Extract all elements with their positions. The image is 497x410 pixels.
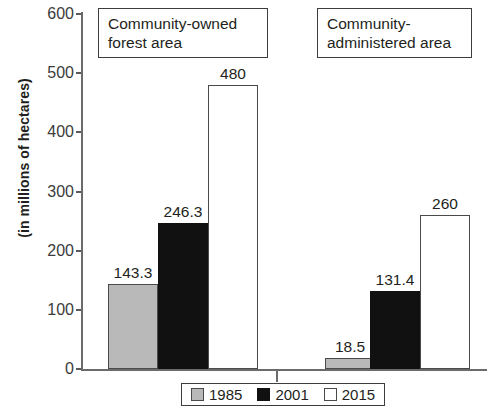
legend-swatch-icon <box>191 388 204 401</box>
legend-item-1985: 1985 <box>191 387 242 402</box>
y-tick-label: 400 <box>28 124 74 140</box>
plot-area: 143.3246.348018.5131.4260 <box>82 0 487 370</box>
legend: 198520012015 <box>181 383 385 406</box>
legend-item-2015: 2015 <box>324 387 375 402</box>
y-axis-ticks: 6005004003002001000 <box>28 0 74 410</box>
y-tick-label: 200 <box>28 243 74 259</box>
bar-chart: (in millions of hectares) 60050040030020… <box>0 0 497 410</box>
bar-2001-group-1 <box>158 223 208 369</box>
legend-swatch-icon <box>257 388 270 401</box>
legend-swatch-icon <box>324 388 337 401</box>
bar-value-label: 480 <box>198 66 268 81</box>
bar-2001-group-2 <box>370 291 420 369</box>
y-tick-label: 100 <box>28 302 74 318</box>
bar-2015-group-1 <box>208 85 258 369</box>
y-tick-label: 500 <box>28 65 74 81</box>
legend-label: 2015 <box>342 387 375 402</box>
bar-2015-group-2 <box>420 215 470 369</box>
y-tick-label: 300 <box>28 184 74 200</box>
legend-label: 1985 <box>209 387 242 402</box>
bar-value-label: 260 <box>410 196 480 211</box>
category-separator-tick <box>276 371 278 382</box>
bar-1985-group-1 <box>108 284 158 369</box>
bar-1985-group-2 <box>325 358 375 369</box>
y-tick-label: 600 <box>28 6 74 22</box>
legend-label: 2001 <box>275 387 308 402</box>
legend-item-2001: 2001 <box>257 387 308 402</box>
y-tick-label: 0 <box>28 361 74 377</box>
